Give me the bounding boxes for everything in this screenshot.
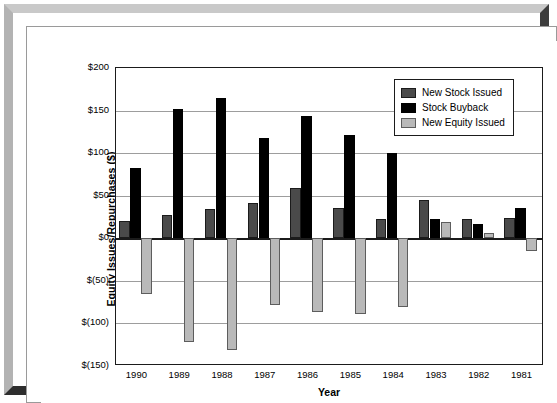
bar [484, 233, 495, 238]
chart-legend: New Stock IssuedStock BuybackNew Equity … [394, 79, 514, 136]
legend-label: New Equity Issued [422, 118, 505, 128]
bar [130, 168, 141, 239]
gridline [116, 281, 542, 282]
frame-inner-border: Equity Issues/Repurchases ($) $200$150$1… [26, 26, 557, 403]
x-axis-tick-label: 1989 [169, 369, 190, 380]
legend-item: Stock Buyback [401, 100, 505, 115]
y-axis-tick-label: $(100) [51, 318, 109, 328]
bar [312, 238, 323, 312]
bar [184, 238, 195, 342]
bar [162, 215, 173, 238]
image-frame: Equity Issues/Repurchases ($) $200$150$1… [0, 0, 557, 403]
bar [441, 222, 452, 238]
x-axis-tick-label: 1981 [511, 369, 532, 380]
bar [376, 219, 387, 239]
y-axis-tick-label: $150 [51, 105, 109, 115]
legend-swatch-icon [401, 118, 416, 128]
bar [248, 203, 259, 239]
bar [216, 98, 227, 238]
bar [344, 135, 355, 238]
y-axis-tick-label: $0 [51, 233, 109, 243]
bar [515, 208, 526, 239]
bar [473, 224, 484, 238]
bar [526, 238, 537, 251]
bar [259, 138, 270, 238]
y-axis-tick-label: $(150) [51, 360, 109, 370]
x-axis-tick-label: 1987 [254, 369, 275, 380]
x-axis-tick-label: 1984 [383, 369, 404, 380]
frame-bevel: Equity Issues/Repurchases ($) $200$150$1… [4, 4, 549, 395]
y-axis-tick-label: $(50) [51, 275, 109, 285]
legend-swatch-icon [401, 103, 416, 113]
bar [504, 218, 515, 238]
gridline [116, 323, 542, 324]
bar [387, 153, 398, 238]
bar [333, 208, 344, 239]
bar [430, 219, 441, 239]
bar [205, 209, 216, 238]
bar [301, 116, 312, 239]
y-axis-tick-label: $100 [51, 147, 109, 157]
y-axis-tick-label: $200 [51, 62, 109, 72]
legend-label: New Stock Issued [422, 88, 502, 98]
x-axis-tick-label: 1985 [340, 369, 361, 380]
x-axis-tick-label: 1988 [211, 369, 232, 380]
zero-axis-line [116, 238, 542, 240]
x-axis-tick-label: 1982 [468, 369, 489, 380]
legend-label: Stock Buyback [422, 103, 488, 113]
bar [173, 109, 184, 238]
bar [398, 238, 409, 307]
x-axis-tick-label: 1983 [425, 369, 446, 380]
bar [419, 200, 430, 238]
bar [270, 238, 281, 304]
bar [141, 238, 152, 293]
legend-item: New Stock Issued [401, 85, 505, 100]
bar [119, 221, 130, 238]
y-axis-tick-label: $50 [51, 190, 109, 200]
legend-item: New Equity Issued [401, 115, 505, 130]
x-axis-title: Year [115, 386, 543, 398]
legend-swatch-icon [401, 88, 416, 98]
x-axis-tick-label: 1986 [297, 369, 318, 380]
bar [355, 238, 366, 314]
x-axis-tick-label: 1990 [126, 369, 147, 380]
chart-canvas: Equity Issues/Repurchases ($) $200$150$1… [41, 41, 557, 403]
bar [462, 219, 473, 239]
bar [290, 188, 301, 238]
bar [227, 238, 238, 350]
